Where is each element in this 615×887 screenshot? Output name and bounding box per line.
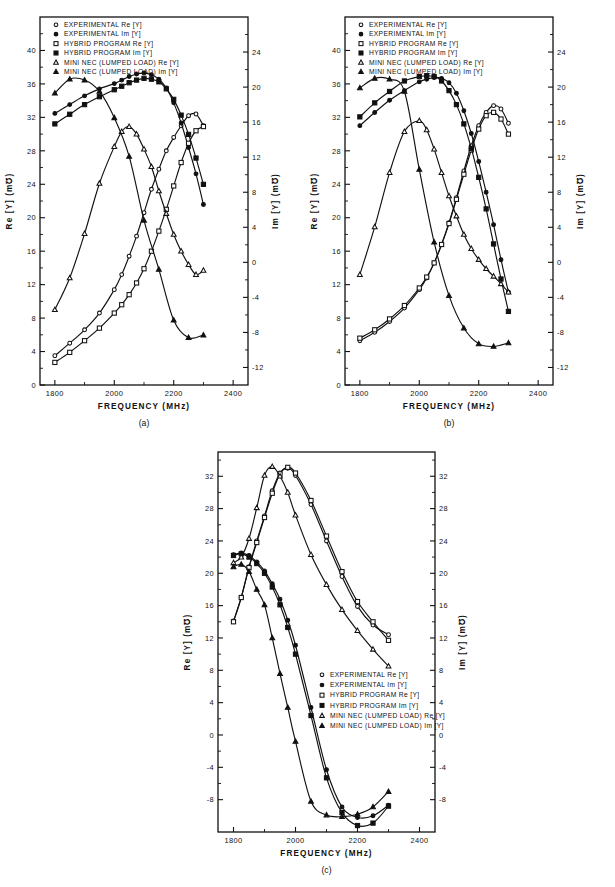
- data-point-square-filled: [82, 103, 86, 107]
- y-left-tick-label: 28: [332, 147, 341, 156]
- data-point-square-filled: [97, 95, 101, 99]
- data-point-triangle-filled: [254, 587, 259, 591]
- data-point-square-filled: [386, 804, 390, 808]
- y-right-tick-label: -4: [252, 293, 259, 302]
- legend-label: EXPERIMENTAL Im [Y]: [369, 30, 446, 38]
- data-point-square-filled: [262, 571, 266, 575]
- data-point-triangle-open: [293, 513, 298, 517]
- y-right-tick-label: 28: [439, 504, 448, 513]
- data-point-square-open: [127, 293, 131, 297]
- data-point-square-filled: [286, 625, 290, 629]
- data-point-square-open: [402, 303, 406, 307]
- data-point-circle-open: [187, 114, 191, 118]
- data-point-square-filled: [172, 97, 176, 101]
- data-point-square-filled: [484, 207, 488, 211]
- y-right-tick-label: 4: [439, 698, 444, 707]
- data-point-circle-filled: [373, 111, 377, 115]
- data-point-square-open: [157, 229, 161, 233]
- y-left-tick-label: 32: [27, 113, 36, 122]
- data-point-triangle-filled: [186, 335, 191, 339]
- data-point-triangle-open: [320, 713, 325, 717]
- data-point-square-filled: [462, 122, 466, 126]
- data-point-square-open: [53, 360, 57, 364]
- data-point-square-open: [447, 221, 451, 225]
- plot-b: 18002000220024000481216202428323640-12-8…: [305, 0, 605, 440]
- data-point-square-filled: [432, 74, 436, 78]
- data-point-triangle-filled: [201, 332, 206, 336]
- data-point-square-open: [462, 172, 466, 176]
- data-point-triangle-open: [387, 170, 392, 174]
- data-point-triangle-open: [309, 552, 314, 556]
- data-point-triangle-open: [417, 118, 422, 122]
- data-point-square-filled: [134, 78, 138, 82]
- data-point-square-open: [355, 599, 359, 603]
- series-square-open: [53, 124, 206, 364]
- data-point-square-filled: [142, 76, 146, 80]
- legend-label: EXPERIMENTAL Im [Y]: [64, 30, 141, 38]
- series-square-filled: [231, 552, 390, 828]
- y-left-tick-label: 16: [205, 601, 214, 610]
- data-point-triangle-filled: [506, 340, 511, 344]
- legend-label: MINI NEC (LUMPED LOAD) Im [Y]: [330, 722, 444, 730]
- series-line: [55, 73, 204, 204]
- legend-label: MINI NEC (LUMPED LOAD) Re [Y]: [369, 59, 484, 67]
- y-left-tick-label: 40: [332, 46, 341, 55]
- data-point-square-filled: [477, 175, 481, 179]
- data-point-square-open: [425, 275, 429, 279]
- y-right-tick-label: 4: [252, 223, 257, 232]
- data-point-circle-filled: [53, 111, 57, 115]
- series-group: [52, 71, 205, 364]
- data-point-square-filled: [112, 88, 116, 92]
- data-point-circle-filled: [477, 160, 481, 164]
- y-left-tick-label: 28: [205, 504, 214, 513]
- y-right-tick-label: -8: [252, 328, 259, 337]
- data-point-circle-filled: [388, 98, 392, 102]
- x-tick-label: 2000: [105, 389, 123, 398]
- data-point-circle-open: [320, 673, 324, 677]
- data-point-triangle-filled: [447, 293, 452, 297]
- data-point-square-filled: [54, 51, 58, 55]
- data-point-triangle-open: [285, 490, 290, 494]
- data-point-square-open: [491, 110, 495, 114]
- panel-b: 18002000220024000481216202428323640-12-8…: [305, 0, 605, 440]
- y-right-tick-label: 16: [439, 601, 448, 610]
- data-point-square-open: [262, 515, 266, 519]
- y-left-tick-label: 0: [336, 381, 341, 390]
- data-point-square-filled: [371, 821, 375, 825]
- y-right-axis-label: Im [Y] (m℧): [458, 614, 467, 670]
- data-point-square-open: [286, 465, 290, 469]
- data-point-circle-filled: [68, 103, 72, 107]
- y-right-tick-label: 32: [439, 472, 448, 481]
- y-right-tick-label: 20: [557, 83, 566, 92]
- data-point-circle-open: [157, 167, 161, 171]
- series-square-open: [358, 110, 511, 340]
- data-point-square-open: [120, 303, 124, 307]
- data-point-circle-filled: [462, 109, 466, 113]
- data-point-circle-open: [149, 187, 153, 191]
- data-point-square-open: [172, 184, 176, 188]
- data-point-triangle-open: [357, 272, 362, 276]
- legend-label: HYBRID PROGRAM Re [Y]: [64, 40, 153, 48]
- y-right-tick-label: 12: [439, 634, 448, 643]
- data-point-circle-open: [356, 604, 360, 608]
- y-left-tick-label: 0: [209, 731, 214, 740]
- legend-label: HYBRID PROGRAM Re [Y]: [330, 691, 419, 699]
- data-point-square-filled: [387, 89, 391, 93]
- series-triangle-open: [52, 124, 205, 312]
- data-point-square-open: [186, 141, 190, 145]
- panel-a: 18002000220024000481216202428323640-12-8…: [0, 0, 300, 440]
- panel-caption: (b): [444, 418, 455, 428]
- series-line: [234, 554, 389, 827]
- data-point-square-filled: [255, 561, 259, 565]
- data-point-circle-filled: [499, 258, 503, 262]
- plot-frame: [218, 452, 435, 832]
- series-triangle-filled: [231, 562, 391, 819]
- data-point-circle-open: [172, 136, 176, 140]
- data-point-circle-filled: [447, 81, 451, 85]
- y-right-tick-label: 0: [439, 731, 444, 740]
- data-point-triangle-filled: [127, 154, 132, 158]
- data-point-square-open: [239, 595, 243, 599]
- data-point-triangle-filled: [476, 341, 481, 345]
- data-point-square-filled: [309, 713, 313, 717]
- data-point-triangle-filled: [387, 77, 392, 81]
